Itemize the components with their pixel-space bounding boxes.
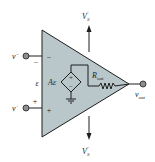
source-minus-sign: − [69,83,73,91]
gain-label: Aε [47,78,57,87]
op-amp-diagram: + − v− v+ − − + + ε Aε Rout vout VS+ VS− [0,0,155,162]
v-out-terminal [140,81,146,87]
source-plus-sign: + [69,74,73,82]
outer-plus-sign: + [33,97,38,106]
v-minus-terminal [23,53,29,59]
v-out-label: vout [135,90,146,100]
inner-minus-sign: − [47,53,52,62]
vs-plus-label: VS+ [82,10,90,22]
epsilon-label: ε [35,79,39,88]
v-minus-label: v− [12,52,19,61]
outer-minus-sign: − [34,58,39,67]
arrow-up-icon [87,25,92,32]
vs-minus-label: VS− [82,145,90,157]
v-plus-label: v+ [12,104,19,113]
v-plus-terminal [23,105,29,111]
inner-plus-sign: + [47,106,52,115]
arrow-down-icon [87,133,92,140]
